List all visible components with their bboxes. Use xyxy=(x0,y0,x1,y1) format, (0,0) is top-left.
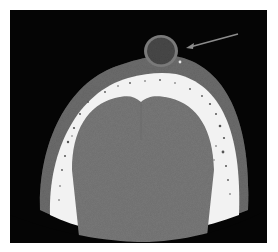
arrow-annotation xyxy=(186,34,238,49)
arrow-head-icon xyxy=(186,43,194,49)
ct-scan-image xyxy=(10,10,267,243)
ct-image-panel xyxy=(10,10,267,243)
brain xyxy=(72,96,214,243)
cropped-caption-strip xyxy=(0,246,278,252)
